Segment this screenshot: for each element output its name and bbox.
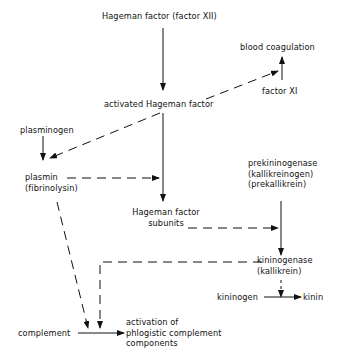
node-prekininogenase: prekininogenase (kallikreinogen) (prekal…: [248, 158, 317, 190]
node-kininogen: kininogen: [217, 292, 258, 303]
activation-line1: activation of: [126, 317, 222, 328]
node-plasminogen: plasminogen: [20, 125, 74, 136]
prekininogenase-line3: (prekallikrein): [248, 179, 317, 190]
node-activation: activation of phlogistic complement comp…: [126, 317, 222, 349]
node-kinin: kinin: [303, 292, 323, 303]
node-complement: complement: [18, 328, 70, 339]
node-kininogenase: kininogenase (kallikrein): [257, 255, 313, 276]
node-factor-xi: factor XI: [262, 86, 298, 97]
node-activated-hageman: activated Hageman factor: [104, 99, 214, 110]
hf-subunits-line1: Hageman factor: [124, 207, 208, 218]
node-hageman-factor: Hageman factor (factor XII): [102, 11, 217, 22]
arrow-activated-to-plasmin: [50, 113, 160, 158]
node-blood-coagulation: blood coagulation: [240, 42, 315, 53]
activation-line2: phlogistic complement: [126, 328, 222, 339]
plasmin-line2: (fibrinolysin): [25, 183, 78, 194]
node-plasmin: plasmin (fibrinolysin): [25, 172, 78, 193]
node-hf-subunits: Hageman factor subunits: [124, 207, 208, 228]
activation-line3: components: [126, 338, 222, 349]
prekininogenase-line2: (kallikreinogen): [248, 169, 317, 180]
kininogenase-line2: (kallikrein): [257, 266, 313, 277]
hf-subunits-line2: subunits: [124, 218, 208, 229]
prekininogenase-line1: prekininogenase: [248, 158, 317, 169]
diagram-canvas: Hageman factor (factor XII) blood coagul…: [0, 0, 337, 362]
plasmin-line1: plasmin: [25, 172, 78, 183]
arrow-plasmin-to-complement: [57, 202, 88, 328]
kininogenase-line1: kininogenase: [257, 255, 313, 266]
